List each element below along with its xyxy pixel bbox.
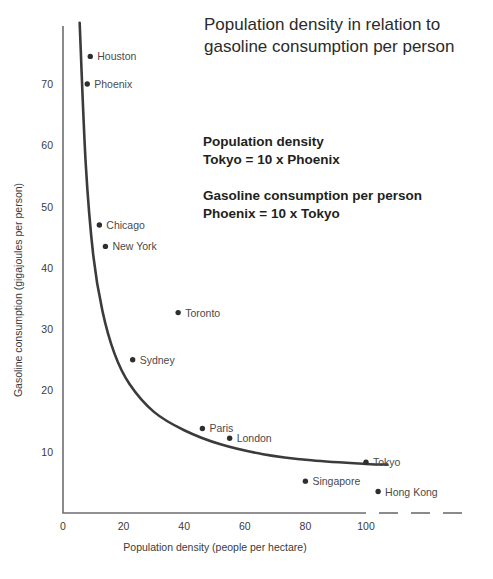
data-point-marker[interactable] [363, 459, 368, 464]
data-point[interactable]: London [227, 432, 272, 444]
y-axis-tick-label: 30 [41, 323, 53, 335]
data-point[interactable]: Houston [88, 50, 137, 62]
data-point-label: New York [112, 240, 157, 252]
data-point-marker[interactable] [103, 244, 108, 249]
data-point[interactable]: New York [103, 240, 158, 252]
data-points-group: HoustonPhoenixChicagoNew YorkTorontoSydn… [85, 50, 438, 497]
data-point[interactable]: Hong Kong [375, 486, 437, 498]
x-axis-tick-label: 60 [239, 520, 251, 532]
chart-title: Population density in relation to gasoli… [204, 15, 454, 56]
data-point[interactable]: Toronto [175, 307, 220, 319]
data-point[interactable]: Chicago [97, 219, 145, 231]
y-axis-tick-labels: 10203040506070 [41, 78, 53, 458]
x-axis-title: Population density (people per hectare) [123, 541, 306, 553]
chart-figure: Population density in relation to gasoli… [0, 0, 493, 579]
data-point-label: Sydney [140, 354, 176, 366]
y-axis-tick-label: 50 [41, 201, 53, 213]
axis-lines [63, 26, 366, 513]
data-point-marker[interactable] [375, 489, 380, 494]
data-point-label: Phoenix [94, 78, 133, 90]
x-axis-tick-labels: 020406080100 [60, 520, 375, 532]
data-point-label: Hong Kong [385, 486, 438, 498]
gasoline-consumption-callout-line-2: Phoenix = 10 x Tokyo [203, 206, 340, 221]
data-point-label: Toronto [185, 307, 220, 319]
x-axis-tick-label: 20 [118, 520, 130, 532]
x-axis-tick-label: 80 [300, 520, 312, 532]
y-axis-tick-label: 70 [41, 78, 53, 90]
gasoline-consumption-callout-line-1: Gasoline consumption per person [203, 188, 422, 203]
data-point[interactable]: Phoenix [85, 78, 133, 90]
data-point-label: Singapore [312, 475, 360, 487]
population-density-callout-line-2: Tokyo = 10 x Phoenix [203, 152, 340, 167]
data-point-marker[interactable] [227, 436, 232, 441]
data-point-label: London [237, 432, 272, 444]
data-point-marker[interactable] [303, 478, 308, 483]
y-axis-tick-label: 60 [41, 139, 53, 151]
data-point-marker[interactable] [85, 81, 90, 86]
data-point-label: Tokyo [373, 456, 401, 468]
data-point-marker[interactable] [130, 357, 135, 362]
y-axis-tick-label: 40 [41, 262, 53, 274]
data-point[interactable]: Paris [200, 422, 234, 434]
data-point-label: Houston [97, 50, 136, 62]
data-point[interactable]: Singapore [303, 475, 361, 487]
population-density-callout: Population density Tokyo = 10 x Phoenix [203, 134, 340, 167]
y-axis-title: Gasoline consumption (gigajoules per per… [12, 183, 24, 397]
data-point-label: Chicago [106, 219, 145, 231]
chart-title-line-1: Population density in relation to [204, 15, 440, 34]
x-axis-tick-label: 100 [357, 520, 375, 532]
x-axis-tick-label: 0 [60, 520, 66, 532]
population-density-gasoline-scatter-chart: Population density in relation to gasoli… [0, 0, 493, 579]
data-point-marker[interactable] [88, 54, 93, 59]
chart-title-line-2: gasoline consumption per person [204, 37, 454, 56]
data-point-marker[interactable] [97, 222, 102, 227]
data-point[interactable]: Sydney [130, 354, 175, 366]
data-point-marker[interactable] [175, 310, 180, 315]
data-point-marker[interactable] [200, 426, 205, 431]
data-point[interactable]: Tokyo [363, 456, 400, 468]
data-point-label: Paris [209, 422, 233, 434]
gasoline-consumption-callout: Gasoline consumption per person Phoenix … [203, 188, 422, 221]
population-density-callout-line-1: Population density [203, 134, 324, 149]
y-axis-tick-label: 10 [41, 446, 53, 458]
y-axis-tick-label: 20 [41, 384, 53, 396]
x-axis-tick-label: 40 [178, 520, 190, 532]
